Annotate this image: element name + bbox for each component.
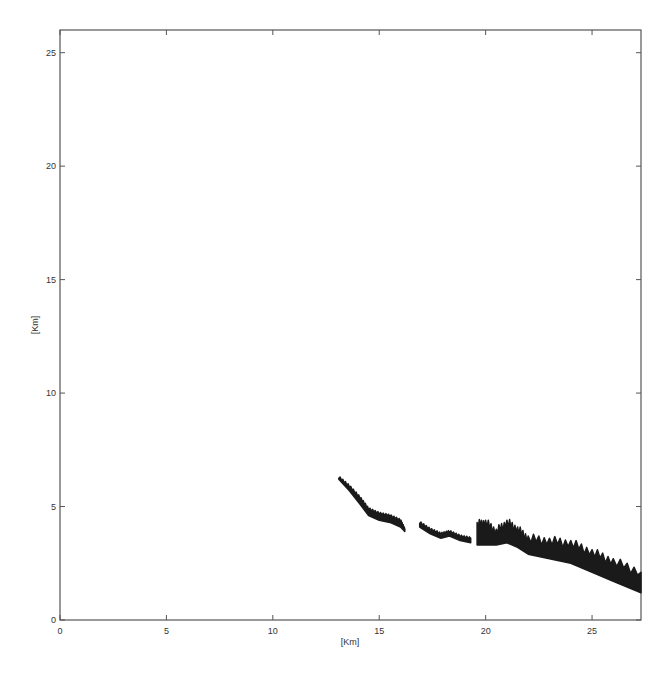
x-tick-label: 20 — [481, 626, 491, 636]
x-tick-label: 0 — [57, 626, 62, 636]
axes-frame — [60, 30, 641, 620]
y-tick-label: 10 — [46, 388, 56, 398]
y-tick-label: 0 — [51, 615, 56, 625]
x-tick-label: 15 — [374, 626, 384, 636]
x-axis-label: [Km] — [341, 637, 360, 647]
x-tick-label: 10 — [268, 626, 278, 636]
y-tick-label: 15 — [46, 275, 56, 285]
plot-area: 0510152025 0510152025 — [46, 30, 641, 636]
y-axis-label: [Km] — [30, 316, 40, 335]
y-tick-label: 20 — [46, 161, 56, 171]
x-tick-label: 25 — [587, 626, 597, 636]
x-tick-label: 5 — [164, 626, 169, 636]
y-tick-label: 25 — [46, 48, 56, 58]
chart-canvas: 0510152025 0510152025 [Km] [Km] — [0, 0, 672, 684]
y-tick-label: 5 — [51, 502, 56, 512]
